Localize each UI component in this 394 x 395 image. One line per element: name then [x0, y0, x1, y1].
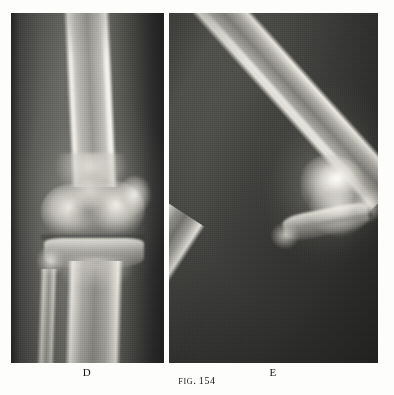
- figure-page: D E Fig.154: [0, 0, 394, 395]
- radiograph-panel-e: [169, 13, 378, 363]
- figure-caption-prefix: Fig.: [178, 374, 196, 386]
- figure-caption: Fig.154: [0, 374, 394, 386]
- radiograph-film-d: [11, 13, 164, 363]
- figure-caption-number: 154: [197, 375, 216, 386]
- radiograph-panel-d: [11, 13, 164, 363]
- radiograph-film-e: [169, 13, 378, 363]
- halftone-grain-e: [169, 13, 378, 363]
- halftone-grain-d: [11, 13, 164, 363]
